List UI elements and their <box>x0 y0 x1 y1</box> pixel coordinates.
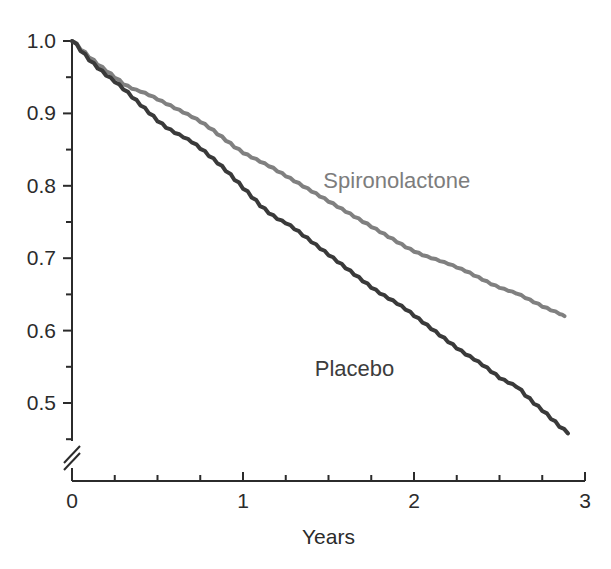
series-label-spironolactone: Spironolactone <box>323 168 470 194</box>
ytick-label-0-6: 0.6 <box>0 319 56 343</box>
series-label-placebo: Placebo <box>315 356 395 382</box>
ytick-label-0-9: 0.9 <box>0 101 56 125</box>
x-axis-title: Years <box>302 525 355 549</box>
ytick-label-1-0: 1.0 <box>0 29 56 53</box>
xtick-label-2: 2 <box>408 489 420 513</box>
ytick-label-0-8: 0.8 <box>0 174 56 198</box>
plot-area <box>0 0 611 569</box>
xtick-label-1: 1 <box>237 489 249 513</box>
ytick-label-0-5: 0.5 <box>0 391 56 415</box>
ytick-label-0-7: 0.7 <box>0 246 56 270</box>
xtick-label-0: 0 <box>66 489 78 513</box>
xtick-label-3: 3 <box>579 489 591 513</box>
series-line-spironolactone <box>72 41 564 316</box>
survival-curve-figure: 1.0 0.9 0.8 0.7 0.6 0.5 0 1 2 3 Years Sp… <box>0 0 611 569</box>
